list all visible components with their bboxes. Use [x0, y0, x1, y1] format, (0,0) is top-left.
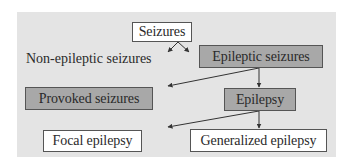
- node-epilepsy: Epilepsy: [224, 88, 296, 111]
- arrow-seizures-to-epileptic: [178, 42, 189, 52]
- node-non-epileptic-seizures: Non-epileptic seizures: [26, 51, 152, 67]
- arrow-epilepsy-to-focal: [168, 111, 259, 127]
- node-provoked-seizures-label: Provoked seizures: [39, 91, 140, 107]
- node-focal-epilepsy-label: Focal epilepsy: [53, 133, 133, 149]
- arrow-epileptic-to-provoked: [168, 68, 259, 86]
- node-seizures-label: Seizures: [139, 24, 186, 40]
- node-focal-epilepsy: Focal epilepsy: [43, 130, 142, 152]
- node-provoked-seizures: Provoked seizures: [25, 87, 153, 110]
- node-generalized-epilepsy-label: Generalized epilepsy: [201, 133, 317, 149]
- node-epilepsy-label: Epilepsy: [236, 92, 284, 108]
- node-epileptic-seizures: Epileptic seizures: [199, 45, 323, 68]
- node-seizures: Seizures: [132, 22, 192, 42]
- node-epileptic-seizures-label: Epileptic seizures: [212, 49, 309, 65]
- arrow-seizures-to-nonepileptic: [168, 42, 178, 52]
- node-generalized-epilepsy: Generalized epilepsy: [190, 129, 327, 152]
